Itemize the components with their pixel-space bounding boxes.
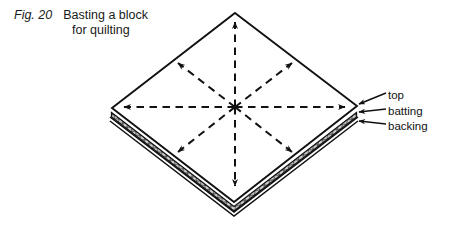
label-batting: batting [388,104,428,120]
label-top: top [388,88,428,104]
layer-labels: top batting backing [388,88,428,135]
diagram-canvas [0,0,452,229]
label-backing: backing [388,119,428,135]
label-leader-lines [359,93,386,124]
leader-line-batting [359,109,386,112]
leader-line-top [359,93,386,104]
quilt-block-diagram [0,0,452,229]
leader-line-backing [359,121,386,124]
